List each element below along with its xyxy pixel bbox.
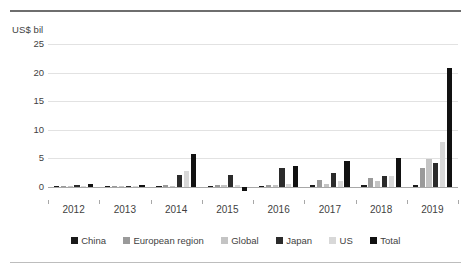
x-axis-tick-labels: 20122013201420152016201720182019 [48,200,458,218]
legend-swatch-icon [71,237,78,244]
bar-global-2017 [324,184,329,187]
y-axis-tick: 25 [10,39,44,49]
y-axis-tick: 10 [10,125,44,135]
x-axis-separator-tick [356,200,357,204]
bar-european-region-2015 [215,185,220,187]
chart-legend: ChinaEuropean regionGlobalJapanUSTotal [0,236,471,246]
x-axis-tick: 2012 [63,204,85,215]
bar-series-group [48,44,458,198]
legend-item-label: Total [380,236,400,246]
bar-japan-2016 [279,168,284,186]
bar-european-region-2012 [61,186,66,187]
bar-japan-2015 [228,175,233,187]
legend-swatch-icon [221,237,228,244]
x-axis-separator-tick [304,200,305,204]
bar-us-2017 [338,181,343,187]
y-axis-tick: 20 [10,68,44,78]
legend-item-label: Global [231,236,258,246]
bar-us-2018 [389,176,394,186]
bar-total-2016 [293,166,298,187]
bar-us-2014 [184,171,189,187]
bar-china-2013 [105,186,110,187]
x-axis-separator-tick [48,200,49,204]
x-axis-tick: 2018 [370,204,392,215]
bar-european-region-2019 [420,168,425,187]
x-axis-separator-tick [253,200,254,204]
legend-swatch-icon [329,237,336,244]
legend-item-label: Japan [286,236,312,246]
bar-global-2013 [119,186,124,187]
x-axis-separator-tick [99,200,100,204]
bar-european-region-2018 [368,178,373,187]
bar-china-2018 [361,185,366,186]
x-axis-separator-tick [202,200,203,204]
bar-japan-2018 [382,176,387,187]
top-divider-rule [10,10,461,12]
legend-item-total[interactable]: Total [370,236,401,246]
bar-china-2015 [208,186,213,187]
x-axis-tick: 2014 [165,204,187,215]
y-axis-tick-labels: 2520151050 [4,44,44,198]
bar-european-region-2017 [317,180,322,186]
bar-total-2012 [88,184,93,186]
bar-japan-2012 [74,185,79,187]
legend-item-label: China [81,236,106,246]
bar-us-2012 [81,186,86,187]
bar-global-2012 [68,186,73,187]
bar-global-2015 [221,185,226,186]
bar-european-region-2014 [163,185,168,186]
bar-global-2014 [170,186,175,187]
legend-swatch-icon [370,237,377,244]
x-axis-separator-tick [407,200,408,204]
bar-european-region-2013 [112,186,117,187]
legend-item-label: US [340,236,353,246]
x-axis-separator-tick [458,200,459,204]
plot-area [48,44,458,198]
bar-china-2016 [259,186,264,187]
bar-total-2015 [242,187,247,191]
legend-item-global[interactable]: Global [221,236,259,246]
x-axis-tick: 2016 [268,204,290,215]
bar-china-2012 [54,186,59,187]
bar-china-2014 [156,186,161,187]
legend-item-us[interactable]: US [329,236,353,246]
bar-total-2014 [191,154,196,187]
bar-total-2013 [139,185,144,186]
bar-us-2015 [235,185,240,187]
bar-global-2018 [375,181,380,187]
bar-total-2019 [447,68,452,186]
x-axis-tick: 2013 [114,204,136,215]
legend-swatch-icon [276,237,283,244]
legend-item-china[interactable]: China [71,236,106,246]
y-axis-tick: 15 [10,96,44,106]
bar-total-2018 [396,158,401,187]
bar-japan-2013 [126,186,131,187]
legend-swatch-icon [123,237,130,244]
bar-total-2017 [344,161,349,187]
bar-china-2019 [413,185,418,187]
bar-japan-2019 [433,163,438,186]
legend-item-label: European region [133,236,203,246]
legend-item-european-region[interactable]: European region [123,236,204,246]
y-axis-tick: 5 [10,153,44,163]
bar-japan-2014 [177,175,182,186]
bar-china-2017 [310,185,315,186]
bar-global-2019 [426,159,431,186]
bottom-divider-rule [10,262,461,263]
bar-global-2016 [273,185,278,186]
x-axis-tick: 2017 [319,204,341,215]
bar-us-2016 [286,184,291,186]
x-axis-tick: 2019 [421,204,443,215]
bar-european-region-2016 [266,185,271,187]
x-axis-separator-tick [151,200,152,204]
bar-us-2019 [440,142,445,187]
y-axis-unit-label: US$ bil [12,24,43,35]
chart-container: US$ bil 2520151050 201220132014201520162… [0,0,471,276]
bar-japan-2017 [331,173,336,187]
bar-us-2013 [133,186,138,187]
legend-item-japan[interactable]: Japan [276,236,312,246]
y-axis-tick: 0 [10,182,44,192]
x-axis-tick: 2015 [216,204,238,215]
